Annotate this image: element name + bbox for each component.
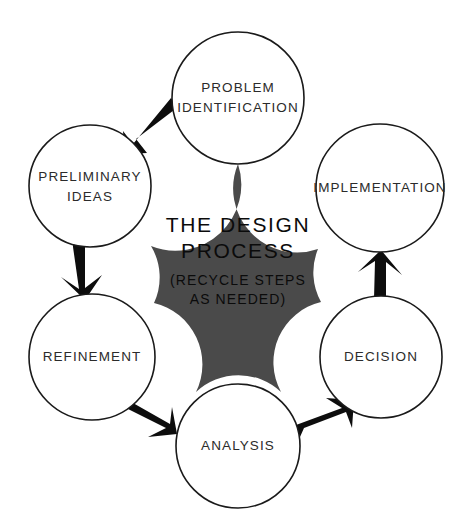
node-label-preliminary-ideas-line-2: IDEAS [67, 189, 113, 204]
diagram-canvas: THE DESIGN PROCESS (RECYCLE STEPS AS NEE… [0, 0, 476, 531]
node-label-analysis: ANALYSIS [201, 438, 275, 453]
arrow-preliminary-to-refinement [61, 244, 102, 300]
node-problem-identification[interactable] [172, 32, 304, 164]
node-label-problem-identification-line-1: PROBLEM [201, 80, 275, 95]
hub-subtitle-line-2: AS NEEDED) [190, 291, 287, 307]
node-label-preliminary-ideas-line-1: PRELIMINARY [38, 169, 141, 184]
node-label-implementation: IMPLEMENTATION [313, 180, 446, 195]
arrow-decision-to-implementation [358, 250, 402, 301]
node-label-problem-identification-line-2: IDENTIFICATION [177, 100, 299, 115]
node-preliminary-ideas[interactable] [29, 125, 151, 247]
hub-title-line2: PROCESS [181, 239, 295, 262]
hub-subtitle-line-1: (RECYCLE STEPS [170, 272, 306, 288]
node-label-refinement: REFINEMENT [43, 349, 142, 364]
node-label-decision: DECISION [344, 349, 418, 364]
hub-title: THE DESIGN [166, 213, 310, 236]
design-process-diagram: THE DESIGN PROCESS (RECYCLE STEPS AS NEE… [0, 0, 476, 531]
hub-group: THE DESIGN PROCESS (RECYCLE STEPS AS NEE… [151, 164, 321, 392]
